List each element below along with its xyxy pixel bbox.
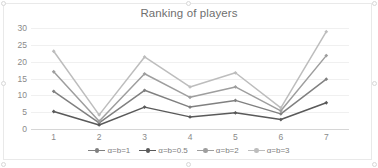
data-point-marker [234,98,238,102]
x-tick-label: 3 [142,132,147,142]
legend-label: α=b=3 [267,146,290,155]
y-tick-label: 5 [3,107,27,117]
legend-swatch [88,147,105,154]
x-tick-label: 1 [51,132,56,142]
chart-legend[interactable]: α=b=1α=b=0.5α=b=2α=b=3 [0,146,378,155]
legend-marker-icon [146,148,151,153]
resize-handle-top-right[interactable] [372,1,377,6]
legend-swatch [197,147,214,154]
x-tick-label: 2 [97,132,102,142]
legend-label: α=b=2 [216,146,239,155]
legend-item[interactable]: α=b=1 [88,146,130,155]
x-tick-label: 7 [324,132,329,142]
resize-handle-bottom-center[interactable] [186,162,191,167]
data-point-marker [52,110,56,114]
series-line [54,32,327,115]
legend-marker-icon [254,148,259,153]
x-tick-label: 5 [233,132,238,142]
legend-label: α=b=1 [107,146,130,155]
y-tick-label: 0 [3,124,27,134]
y-tick-label: 20 [3,57,27,67]
chart-container[interactable]: Ranking of players 051015202530 1234567 … [0,0,378,168]
legend-item[interactable]: α=b=3 [248,146,290,155]
plot-area [31,28,349,129]
chart-title: Ranking of players [0,7,378,19]
data-point-marker [324,101,328,105]
data-point-marker [143,105,147,109]
legend-item[interactable]: α=b=0.5 [139,146,188,155]
series-lines [31,28,349,129]
legend-marker-icon [95,148,100,153]
resize-handle-bottom-right[interactable] [372,162,377,167]
x-axis-tick-labels: 1234567 [31,132,349,144]
y-tick-label: 30 [3,23,27,33]
x-tick-label: 6 [278,132,283,142]
x-axis-line [31,129,349,130]
y-tick-label: 10 [3,90,27,100]
legend-swatch [139,147,156,154]
resize-handle-top-center[interactable] [186,1,191,6]
legend-swatch [248,147,265,154]
legend-label: α=b=0.5 [158,146,188,155]
x-tick-label: 4 [188,132,193,142]
data-point-marker [279,118,283,122]
resize-handle-bottom-left[interactable] [1,162,6,167]
resize-handle-top-left[interactable] [1,1,6,6]
data-point-marker [188,105,192,109]
legend-item[interactable]: α=b=2 [197,146,239,155]
y-tick-label: 15 [3,74,27,84]
data-point-marker [97,123,101,127]
data-point-marker [234,111,238,115]
data-point-marker [188,115,192,119]
legend-marker-icon [203,148,208,153]
y-tick-label: 25 [3,40,27,50]
